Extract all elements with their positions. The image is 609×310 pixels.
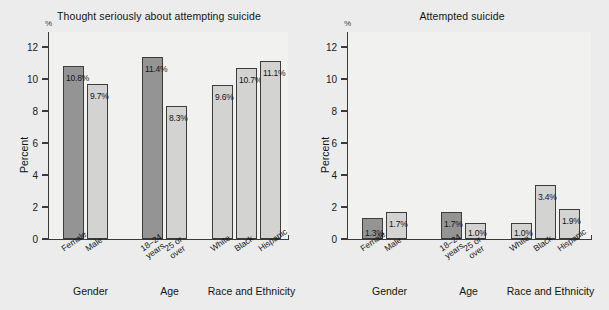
bar-value-label: 1.7% [389,219,408,229]
y-axis-tick: 10 [341,78,348,80]
bar: 3.4% [535,185,556,239]
y-axis-tick-label: 10 [27,74,38,85]
x-axis-group-label: Gender [372,285,407,297]
bar-shadow [241,65,260,234]
y-axis-tick-label: 0 [331,234,337,245]
bar-value-label: 9.6% [215,92,234,102]
bar-value-label: 11.1% [263,68,285,78]
plot-area: 02468101210.8%9.7%11.4%8.3%9.6%10.7%11.1… [48,32,288,240]
bar-value-label: 8.3% [169,113,188,123]
x-axis-group-label: Race and Ethnicity [208,285,296,297]
y-axis-tick-label: 4 [32,170,38,181]
y-axis-tick: 2 [42,206,49,208]
bar: 11.1% [260,61,281,239]
bar: 11.4% [142,57,163,239]
x-axis-end-tick [288,235,290,240]
y-axis-tick-label: 6 [32,138,38,149]
y-axis-label: Percent [319,137,331,173]
y-axis-tick: 12 [341,46,348,48]
y-axis-tick-label: 12 [326,42,337,53]
y-axis-tick: 4 [42,174,49,176]
figure-canvas: Thought seriously about attempting suici… [0,0,609,310]
bar-value-label: 10.8% [66,73,89,83]
y-axis-tick-label: 10 [326,74,337,85]
y-axis-tick: 0 [42,238,49,240]
bar-value-label: 1.9% [562,216,581,226]
y-axis-tick-label: 6 [331,138,337,149]
plot-area: 0246810121.3%1.7%1.7%1.0%1.0%3.4%1.9% [347,32,591,240]
bar-shadow [68,63,87,234]
x-axis-group-label: Race and Ethnicity [507,285,595,297]
bar-shadow [265,58,284,234]
percent-unit-mark: % [45,19,52,28]
bar-shadow [147,54,166,234]
x-axis-end-tick [591,235,593,240]
bar-value-label: 9.7% [90,91,109,101]
x-axis-group-label: Gender [73,285,108,297]
y-axis-tick: 12 [42,46,49,48]
bar-shadow [92,81,111,234]
y-axis-tick-label: 4 [331,170,337,181]
bar-value-label: 11.4% [145,64,167,74]
bar-value-label: 10.7% [239,75,262,85]
bar: 9.7% [87,84,108,239]
y-axis-tick: 0 [341,238,348,240]
y-axis-tick: 2 [341,206,348,208]
y-axis-label: Percent [18,137,30,173]
bar: 10.7% [236,68,257,239]
y-axis-tick-label: 8 [32,106,38,117]
bar-shadow [540,182,559,234]
bar-shadow [217,82,236,234]
y-axis-tick: 4 [341,174,348,176]
x-axis-group-label: Age [459,285,478,297]
bar: 10.8% [63,66,84,239]
y-axis-tick-label: 8 [331,106,337,117]
percent-unit-mark: % [344,19,351,28]
y-axis-tick: 6 [341,142,348,144]
y-axis-tick-label: 12 [27,42,38,53]
y-axis-tick-label: 0 [32,234,38,245]
bar: 9.6% [212,85,233,239]
x-axis-group-label: Age [160,285,179,297]
bar: 8.3% [166,106,187,239]
y-axis-tick-label: 2 [331,202,337,213]
y-axis-tick: 10 [42,78,49,80]
chart-panel-thought-seriously: Thought seriously about attempting suici… [0,0,304,310]
y-axis-tick: 8 [341,110,348,112]
chart-panel-attempted: Attempted suicide % Percent 0246810121.3… [305,0,609,310]
bar-value-label: 3.4% [538,192,557,202]
bar-value-label: 1.7% [444,219,463,229]
y-axis-tick: 6 [42,142,49,144]
y-axis-tick: 8 [42,110,49,112]
y-axis-tick-label: 2 [32,202,38,213]
